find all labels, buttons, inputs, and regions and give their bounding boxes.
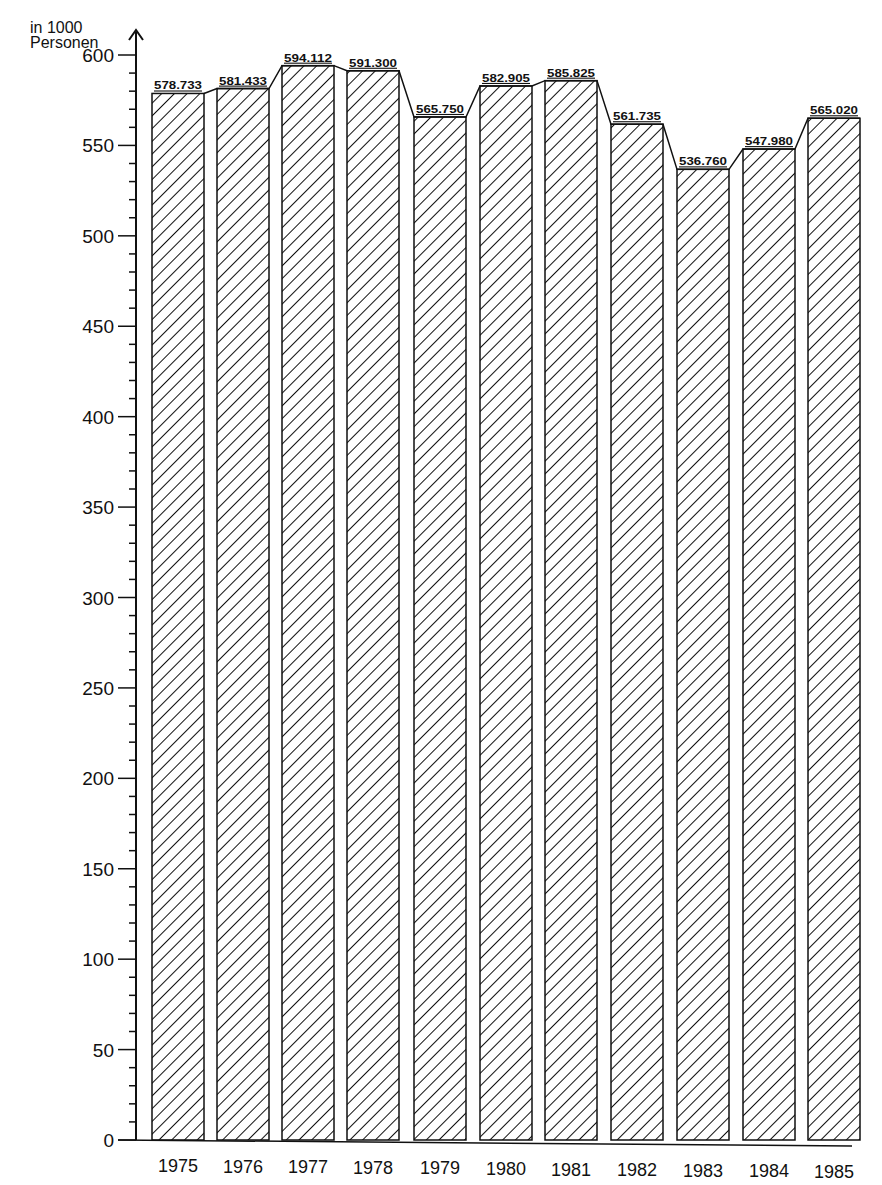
bar-1985: 565.020 [808,104,860,1140]
bar-1983: 536.760 [677,155,729,1140]
y-tick-label: 250 [82,678,114,699]
bars: 578.733581.433594.112591.300565.750582.9… [152,52,860,1140]
y-tick-label: 550 [82,135,114,156]
bar-value-label: 578.733 [154,79,202,91]
bar-value-label: 585.825 [547,67,595,79]
bar-rect [480,86,532,1140]
bar-1981: 585.825 [545,67,597,1140]
bar-chart: 050100150200250300350400450500550600 578… [0,0,882,1185]
bar-value-label: 581.433 [219,75,267,87]
y-tick-label: 200 [82,768,114,789]
bar-rect [414,117,466,1140]
x-tick-label: 1981 [551,1160,591,1180]
y-tick-label: 150 [82,859,114,880]
x-tick-label: 1976 [223,1157,263,1177]
y-tick-label: 50 [93,1040,114,1061]
y-tick-label: 350 [82,497,114,518]
x-tick-label: 1982 [617,1160,657,1180]
y-tick-label: 400 [82,407,114,428]
bar-1975: 578.733 [152,79,204,1140]
y-tick-label: 600 [82,45,114,66]
bar-rect [808,118,860,1140]
bar-value-label: 594.112 [284,52,332,64]
x-tick-label: 1975 [158,1156,198,1176]
bar-value-label: 565.750 [416,103,464,115]
x-tick-label: 1984 [749,1161,789,1181]
bar-1976: 581.433 [217,75,269,1140]
bar-rect [677,169,729,1140]
bar-rect [743,149,795,1140]
y-tick-label: 0 [103,1130,114,1151]
bar-value-label: 561.735 [613,110,661,122]
bar-value-label: 591.300 [349,57,397,69]
bar-rect [152,93,204,1140]
bar-1978: 591.300 [347,57,399,1140]
y-tick-label: 500 [82,226,114,247]
y-axis: 050100150200250300350400450500550600 [82,30,143,1151]
bar-1984: 547.980 [743,135,795,1140]
y-tick-label: 450 [82,316,114,337]
bar-rect [545,81,597,1140]
x-tick-label: 1977 [288,1157,328,1177]
bar-1979: 565.750 [414,103,466,1140]
bar-value-label: 547.980 [745,135,793,147]
bar-rect [217,89,269,1140]
bar-1980: 582.905 [480,72,532,1140]
x-tick-label: 1978 [353,1158,393,1178]
y-tick-label: 300 [82,588,114,609]
x-tick-label: 1980 [486,1159,526,1179]
x-tick-label: 1983 [683,1161,723,1181]
bar-1977: 594.112 [282,52,334,1140]
x-axis-line [118,1140,852,1146]
x-tick-label: 1979 [420,1158,460,1178]
bar-value-label: 536.760 [679,155,727,167]
y-tick-label: 100 [82,949,114,970]
x-tick-label: 1985 [814,1162,854,1182]
bar-value-label: 565.020 [810,104,858,116]
bar-rect [282,66,334,1140]
bar-1982: 561.735 [611,110,663,1140]
bar-value-label: 582.905 [482,72,530,84]
x-axis: 1975197619771978197919801981198219831984… [118,1140,854,1182]
bar-rect [611,124,663,1140]
bar-rect [347,71,399,1140]
